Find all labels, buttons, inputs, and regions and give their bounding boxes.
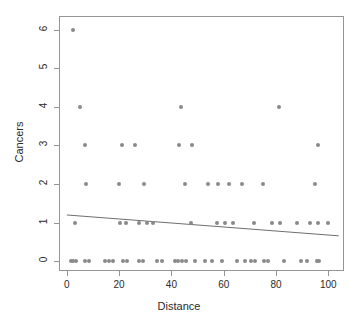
- data-point: [223, 221, 227, 225]
- x-tick-label: 80: [256, 279, 296, 290]
- data-point: [278, 221, 282, 225]
- y-tick-label: 2: [38, 176, 49, 190]
- y-tick-label: 3: [38, 137, 49, 151]
- data-point: [142, 182, 146, 186]
- data-point: [151, 221, 155, 225]
- data-point: [137, 221, 141, 225]
- x-tick-label: 40: [151, 279, 191, 290]
- x-tick-mark: [276, 271, 277, 276]
- x-tick-mark: [224, 271, 225, 276]
- data-point: [261, 182, 265, 186]
- y-tick-label: 4: [38, 98, 49, 112]
- x-tick-mark: [171, 271, 172, 276]
- data-point: [277, 105, 281, 109]
- data-point: [189, 221, 193, 225]
- data-point: [71, 28, 75, 32]
- data-point: [183, 182, 187, 186]
- data-point: [270, 221, 274, 225]
- data-point: [73, 221, 77, 225]
- x-axis-label: Distance: [0, 300, 358, 312]
- y-tick-mark: [54, 261, 59, 262]
- y-tick-mark: [54, 68, 59, 69]
- y-tick-label: 1: [38, 214, 49, 228]
- data-point: [295, 221, 299, 225]
- x-tick-label: 0: [47, 279, 87, 290]
- y-tick-label: 0: [38, 253, 49, 267]
- data-point: [124, 221, 128, 225]
- y-axis-label: Cancers: [13, 92, 25, 192]
- x-tick-label: 20: [99, 279, 139, 290]
- data-point: [308, 221, 312, 225]
- data-point: [111, 259, 115, 263]
- x-tick-mark: [328, 271, 329, 276]
- x-tick-label: 60: [204, 279, 244, 290]
- y-tick-mark: [54, 184, 59, 185]
- y-tick-label: 6: [38, 21, 49, 35]
- x-tick-label: 100: [308, 279, 348, 290]
- data-point: [316, 221, 320, 225]
- data-point: [231, 221, 235, 225]
- y-tick-mark: [54, 223, 59, 224]
- y-tick-mark: [54, 107, 59, 108]
- y-tick-mark: [54, 145, 59, 146]
- x-tick-mark: [67, 271, 68, 276]
- x-tick-mark: [119, 271, 120, 276]
- scatter-plot-figure: 020406080100 0123456 Distance Cancers: [0, 0, 358, 324]
- data-point: [145, 221, 149, 225]
- data-point: [227, 182, 231, 186]
- plot-area: [59, 16, 344, 271]
- y-tick-mark: [54, 30, 59, 31]
- data-point: [215, 221, 219, 225]
- data-point: [78, 105, 82, 109]
- data-point: [252, 221, 256, 225]
- y-tick-label: 5: [38, 60, 49, 74]
- data-point: [179, 105, 183, 109]
